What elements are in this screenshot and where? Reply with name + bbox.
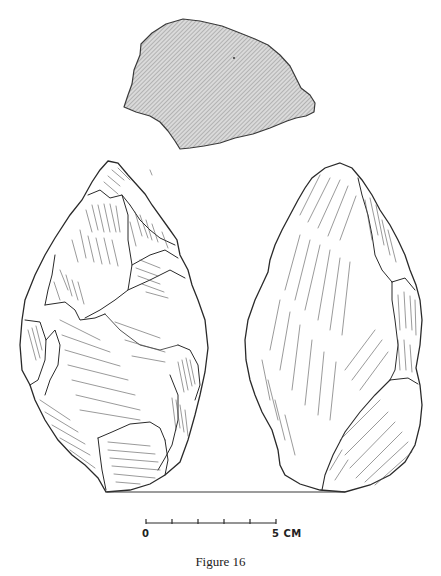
cross-section-drawing [124, 19, 315, 149]
handaxe-face-a-drawing [20, 161, 208, 492]
scale-end-label: 5 CM [272, 528, 302, 539]
figure-caption: Figure 16 [0, 554, 441, 570]
handaxe-face-b-drawing [245, 163, 422, 492]
scale-bar [146, 519, 276, 524]
scale-start-label: 0 [142, 528, 149, 539]
illustration-canvas [0, 0, 441, 576]
figure-plate: 0 5 CM Figure 16 [0, 0, 441, 576]
